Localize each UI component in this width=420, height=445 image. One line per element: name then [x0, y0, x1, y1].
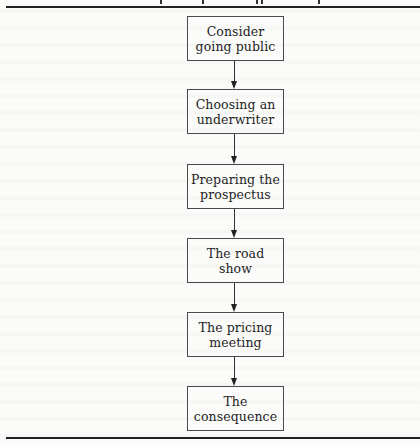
arrowhead-down-icon — [231, 156, 237, 164]
header-descender-mark — [256, 0, 258, 4]
arrowhead-down-icon — [231, 230, 237, 238]
header-descender-mark — [202, 0, 204, 4]
flow-step-label: The pricing meeting — [199, 320, 273, 350]
top-rule — [6, 6, 420, 8]
bottom-rule — [6, 437, 420, 439]
arrowhead-down-icon — [231, 378, 237, 386]
flow-step-label: The road show — [207, 246, 265, 276]
arrowhead-down-icon — [231, 304, 237, 312]
flow-arrow — [234, 209, 235, 230]
flow-step-label: Choosing an underwriter — [196, 97, 276, 127]
flow-step-consider-going-public: Consider going public — [187, 16, 284, 61]
flow-step-preparing-prospectus: Preparing the prospectus — [187, 164, 284, 209]
flow-step-pricing-meeting: The pricing meeting — [187, 312, 284, 357]
header-descender-mark — [261, 0, 263, 4]
paper-background-texture — [0, 0, 420, 445]
header-descender-mark — [160, 0, 162, 4]
flow-step-choosing-underwriter: Choosing an underwriter — [187, 89, 284, 134]
header-descender-mark — [318, 0, 320, 4]
arrowhead-down-icon — [231, 81, 237, 89]
flow-arrow — [234, 283, 235, 304]
flow-step-label: Consider going public — [196, 24, 276, 54]
flow-step-road-show: The road show — [187, 238, 284, 283]
flow-arrow — [234, 61, 235, 81]
flow-step-label: The consequence — [194, 394, 277, 424]
flow-step-label: Preparing the prospectus — [191, 172, 280, 202]
flow-step-consequence: The consequence — [187, 386, 284, 431]
flow-arrow — [234, 357, 235, 378]
flow-arrow — [234, 134, 235, 156]
